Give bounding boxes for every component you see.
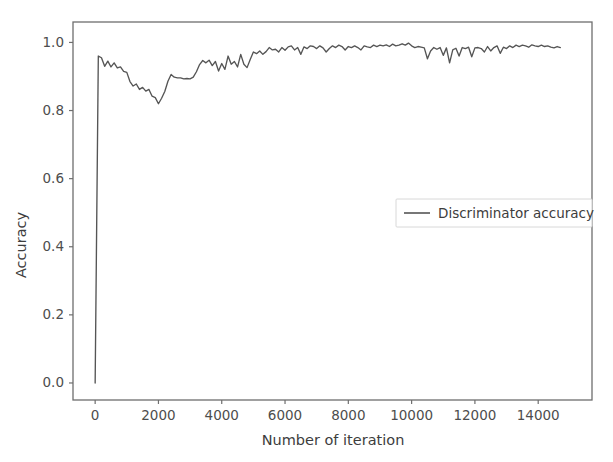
legend-label-discriminator-accuracy: Discriminator accuracy: [438, 205, 594, 221]
x-tick-label: 10000: [390, 407, 433, 423]
x-tick-label: 14000: [517, 407, 560, 423]
y-tick-label: 0.8: [43, 102, 64, 118]
chart-canvas: 0.00.20.40.60.81.0 020004000600080001000…: [0, 0, 613, 462]
y-tick-label: 0.2: [43, 306, 64, 322]
x-tick-label: 2000: [141, 407, 175, 423]
y-axis-ticks: 0.00.20.40.60.81.0: [43, 34, 73, 391]
y-tick-label: 1.0: [43, 34, 64, 50]
x-tick-label: 8000: [331, 407, 365, 423]
y-tick-label: 0.0: [43, 374, 64, 390]
x-tick-label: 6000: [268, 407, 302, 423]
x-tick-label: 0: [91, 407, 100, 423]
y-tick-label: 0.4: [43, 238, 64, 254]
chart-legend[interactable]: Discriminator accuracy: [396, 199, 594, 227]
y-tick-label: 0.6: [43, 170, 64, 186]
x-axis-ticks: 02000400060008000100001200014000: [91, 400, 560, 423]
chart-figure: 0.00.20.40.60.81.0 020004000600080001000…: [0, 0, 613, 462]
x-tick-label: 12000: [453, 407, 496, 423]
x-axis-label: Number of iteration: [262, 432, 405, 448]
y-axis-label: Accuracy: [13, 211, 29, 278]
x-tick-label: 4000: [205, 407, 239, 423]
